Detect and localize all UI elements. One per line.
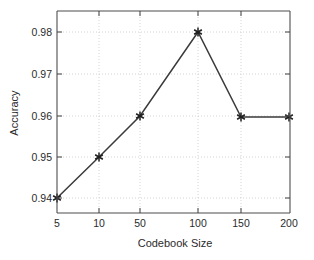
y-tick-label: 0.95 bbox=[32, 151, 53, 163]
y-tick-label: 0.98 bbox=[32, 26, 53, 38]
y-tick-label: 0.94 bbox=[32, 192, 53, 204]
y-tick-label: 0.97 bbox=[32, 68, 53, 80]
line-chart: 0.98 0.97 0.96 0.95 0.94 5 10 50 100 150… bbox=[0, 0, 314, 260]
x-axis-title: Codebook Size bbox=[138, 237, 213, 249]
plot-area-background bbox=[57, 11, 290, 213]
y-axis-title: Accuracy bbox=[8, 90, 20, 136]
x-tick-label: 150 bbox=[232, 217, 250, 229]
x-tick-label: 10 bbox=[93, 217, 105, 229]
x-tick-labels: 5 10 50 100 150 200 bbox=[54, 217, 298, 229]
x-tick-label: 100 bbox=[189, 217, 207, 229]
x-tick-label: 50 bbox=[134, 217, 146, 229]
x-tick-label: 5 bbox=[54, 217, 60, 229]
chart-figure: 0.98 0.97 0.96 0.95 0.94 5 10 50 100 150… bbox=[0, 0, 314, 260]
y-tick-labels: 0.98 0.97 0.96 0.95 0.94 bbox=[32, 26, 53, 204]
x-tick-label: 200 bbox=[280, 217, 298, 229]
y-tick-label: 0.96 bbox=[32, 110, 53, 122]
